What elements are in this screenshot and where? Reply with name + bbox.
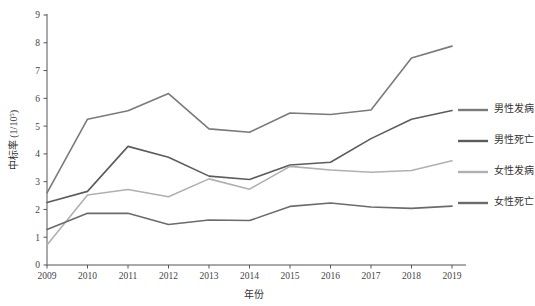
y-axis: 0123456789 bbox=[35, 10, 47, 270]
y-tick-label: 4 bbox=[35, 149, 40, 159]
y-tick-label: 7 bbox=[35, 66, 40, 76]
y-tick-label: 1 bbox=[35, 233, 40, 243]
x-tick-label: 2015 bbox=[281, 271, 300, 281]
x-tick-label: 2009 bbox=[38, 271, 57, 281]
x-tick-label: 2019 bbox=[443, 271, 462, 281]
chart-legend: 男性发病男性死亡女性发病女性死亡 bbox=[458, 102, 534, 207]
y-tick-label: 6 bbox=[35, 94, 40, 104]
y-axis-title: 中标率 (1/105) bbox=[7, 110, 20, 170]
y-tick-label: 5 bbox=[35, 122, 40, 132]
x-tick-label: 2016 bbox=[321, 271, 340, 281]
legend-label-2: 女性发病 bbox=[494, 164, 534, 176]
y-tick-label: 2 bbox=[35, 205, 40, 215]
y-tick-label: 8 bbox=[35, 38, 40, 48]
x-tick-label: 2011 bbox=[119, 271, 138, 281]
series-line-2 bbox=[47, 161, 452, 245]
legend-label-0: 男性发病 bbox=[494, 102, 534, 114]
y-tick-label: 3 bbox=[35, 177, 40, 187]
chart-canvas: 0123456789 20092010201120122013201420152… bbox=[0, 0, 535, 306]
series-line-3 bbox=[47, 203, 452, 229]
legend-label-3: 女性死亡 bbox=[494, 195, 534, 207]
y-tick-label: 9 bbox=[35, 10, 40, 20]
x-tick-label: 2017 bbox=[362, 271, 381, 281]
x-axis: 2009201020112012201320142015201620172018… bbox=[38, 265, 467, 281]
y-tick-label: 0 bbox=[35, 260, 40, 270]
line-chart-figure: 0123456789 20092010201120122013201420152… bbox=[0, 0, 535, 306]
x-tick-label: 2014 bbox=[240, 271, 259, 281]
data-series-group bbox=[47, 46, 452, 245]
x-tick-label: 2018 bbox=[402, 271, 421, 281]
y-axis-title-text: 中标率 (1/105) bbox=[7, 110, 20, 170]
x-tick-label: 2013 bbox=[200, 271, 219, 281]
x-tick-label: 2012 bbox=[159, 271, 178, 281]
x-tick-label: 2010 bbox=[78, 271, 97, 281]
legend-label-1: 男性死亡 bbox=[494, 133, 534, 145]
x-axis-title: 年份 bbox=[244, 288, 264, 300]
